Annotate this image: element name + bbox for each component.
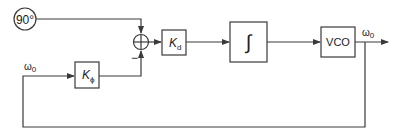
kphi-block: Kϕ	[75, 62, 99, 88]
kd-subscript: d	[177, 43, 181, 52]
summing-junction	[134, 35, 149, 50]
minus-sign: −	[131, 51, 138, 65]
phase-reference-label: 90°	[16, 13, 34, 27]
integrator-block: ∫	[230, 22, 267, 62]
output-omega-subscript: 0	[370, 31, 375, 40]
vco-block: VCO	[321, 27, 355, 57]
svg-text:ω0: ω0	[362, 27, 375, 40]
feedback-omega-label: ω	[24, 61, 32, 72]
output-omega-label: ω	[362, 27, 370, 38]
reference-to-summer-line	[36, 19, 141, 33]
vco-label: VCO	[326, 36, 350, 48]
svg-text:ω0: ω0	[24, 61, 37, 74]
kd-block: Kd	[162, 30, 186, 55]
kphi-subscript: ϕ	[90, 75, 95, 84]
phase-reference-node: 90°	[14, 8, 36, 30]
pll-block-diagram: 90° − Kd ∫ VCO ω0 ω0 Kϕ	[0, 0, 400, 135]
feedback-omega-subscript: 0	[32, 65, 37, 74]
feedback-line	[23, 42, 365, 127]
